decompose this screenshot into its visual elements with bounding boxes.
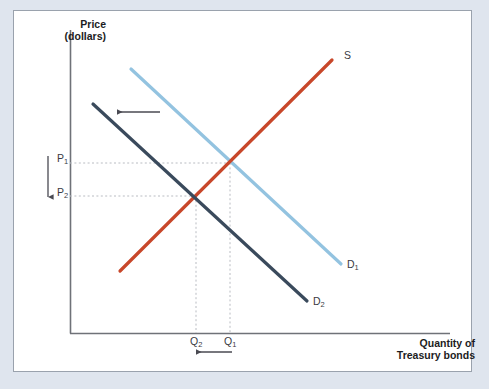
demand-curve-1-label: D1: [347, 258, 359, 271]
supply-curve-label: S: [344, 49, 351, 61]
chart-plot: [0, 0, 489, 389]
price-2-label-text: P: [57, 186, 64, 198]
quantity-2-label: Q2: [190, 335, 202, 348]
price-2-label-sub: 2: [64, 191, 68, 200]
y-axis-title-line1: Price: [80, 18, 106, 30]
demand-curve-2-label-sub: 2: [321, 300, 325, 309]
price-1-label-text: P: [57, 152, 64, 164]
figure-root: Price(dollars) Quantity ofTreasury bonds…: [0, 0, 489, 389]
price-2-label: P2: [57, 186, 68, 199]
price-1-label: P1: [57, 152, 68, 165]
demand-curve-2-label-text: D: [313, 295, 321, 307]
supply-curve: [120, 60, 332, 271]
quantity-1-label: Q1: [224, 335, 236, 348]
x-axis-title-line2: Treasury bonds: [397, 349, 475, 361]
quantity-1-label-sub: 1: [232, 340, 236, 349]
axis-lines: [70, 30, 450, 334]
y-axis-title-line2: (dollars): [65, 30, 106, 42]
quantity-2-label-sub: 2: [198, 340, 202, 349]
quantity-2-label-text: Q: [190, 335, 198, 347]
demand-curve-1-label-text: D: [347, 258, 355, 270]
price-1-label-sub: 1: [64, 157, 68, 166]
x-axis-title: Quantity ofTreasury bonds: [345, 337, 475, 361]
supply-curve-label-text: S: [344, 49, 351, 61]
demand-curve-1-label-sub: 1: [355, 263, 359, 272]
x-axis-title-line1: Quantity of: [420, 337, 475, 349]
reference-lines: [70, 163, 230, 333]
quantity-1-label-text: Q: [224, 335, 232, 347]
demand-curve-2-label: D2: [313, 295, 325, 308]
y-axis-title: Price(dollars): [28, 18, 106, 42]
